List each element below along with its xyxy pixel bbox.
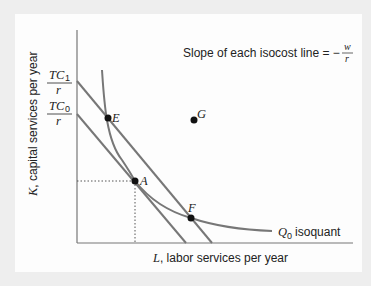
tick-tc0-over-r: TC 0 r [47,99,72,128]
y-axis-label: K, capital services per year [26,52,40,197]
isocost-line-tc0 [77,114,186,243]
point-a [132,178,139,185]
svg-text:0: 0 [65,104,70,114]
point-e [105,115,112,122]
svg-text:r: r [345,53,349,64]
slope-annotation: Slope of each isocost line = − [183,46,340,60]
label-g: G [197,107,206,121]
svg-text:w: w [344,41,351,52]
isoquant-label: Q0isoquant [278,225,341,241]
svg-text:r: r [56,114,61,128]
svg-text:r: r [56,83,61,97]
svg-text:TC: TC [49,99,65,113]
label-e: E [111,111,120,125]
slope-fraction: w r [342,41,353,64]
point-f [188,215,195,222]
svg-text:1: 1 [65,73,70,83]
label-f: F [187,201,196,215]
tick-tc1-over-r: TC 1 r [47,68,72,97]
x-axis-label: L, labor services per year [152,251,288,265]
isocost-isoquant-diagram: E A F G TC 1 r TC 0 r K, capital service… [0,0,371,286]
isoquant-curve [102,70,272,231]
svg-text:TC: TC [49,68,65,82]
label-a: A [139,174,148,188]
